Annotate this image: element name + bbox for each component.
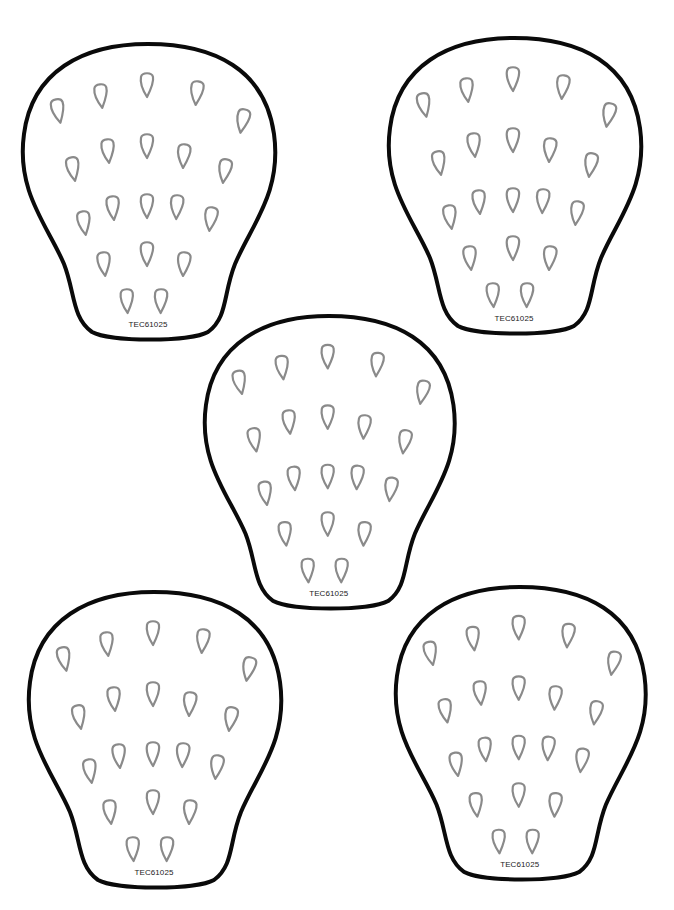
strawberry-outline-icon [386,36,648,336]
product-code-label: TEC61025 [134,868,173,877]
product-code-label: TEC61025 [309,589,348,598]
strawberry-outline-icon [202,314,461,611]
product-code-label: TEC61025 [500,860,539,869]
strawberry-2: TEC61025 [386,36,648,336]
strawberry-outline-icon [393,585,652,882]
strawberry-3: TEC61025 [202,314,461,611]
strawberry-1: TEC61025 [20,42,282,342]
product-code-label: TEC61025 [494,314,533,323]
strawberry-outline-icon [26,590,288,890]
strawberry-worksheet: TEC61025TEC61025TEC61025TEC61025TEC61025 [0,0,674,910]
strawberry-outline-icon [20,42,282,342]
strawberry-5: TEC61025 [393,585,652,882]
strawberry-4: TEC61025 [26,590,288,890]
product-code-label: TEC61025 [128,320,167,329]
